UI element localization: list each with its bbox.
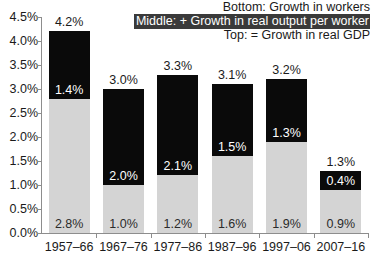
bar-segment-workers-label: 1.0% <box>109 218 138 233</box>
bar-segment-workers-label: 1.6% <box>218 218 247 233</box>
bar-segment-output-per-worker-label: 2.0% <box>109 170 138 185</box>
bar-stack[interactable]: 1.6%1.5% <box>212 84 253 233</box>
bar-segment-workers-label: 1.9% <box>272 218 301 233</box>
bar-total-label: 4.2% <box>49 16 90 29</box>
bar-segment-output-per-worker-label: 1.3% <box>272 127 301 142</box>
bar-stack[interactable]: 0.9%0.4% <box>320 171 361 233</box>
bar-total-label: 3.0% <box>103 74 144 87</box>
bar-segment-workers-label: 1.2% <box>164 218 193 233</box>
bar-stack[interactable]: 1.9%1.3% <box>266 79 307 233</box>
bar-segment-output-per-worker[interactable]: 1.4% <box>49 31 90 98</box>
stacked-bar-chart: Bottom: Growth in workers Middle: + Grow… <box>0 0 372 258</box>
bar-total-label: 3.2% <box>266 64 307 77</box>
y-axis-tick-label: 2.0% <box>10 130 39 144</box>
bar-segment-workers[interactable]: 2.8% <box>49 99 90 233</box>
bar-segment-workers-label: 0.9% <box>327 218 356 233</box>
bar-segment-workers[interactable]: 1.0% <box>103 185 144 233</box>
bar-segment-output-per-worker-label: 2.1% <box>164 160 193 175</box>
y-axis-tick-label: 3.5% <box>10 58 39 72</box>
x-axis-category-label: 1987–96 <box>205 240 259 254</box>
plot-area: 2.8%1.4%4.2%1.0%2.0%3.0%1.2%2.1%3.3%1.6%… <box>42 0 368 258</box>
x-axis-category-label: 1957–66 <box>42 240 96 254</box>
bar-total-label: 3.1% <box>212 69 253 82</box>
y-axis-tick-label: 1.0% <box>10 178 39 192</box>
bar-segment-output-per-worker[interactable]: 0.4% <box>320 171 361 190</box>
bar-segment-workers[interactable]: 1.9% <box>266 142 307 233</box>
y-axis-tick-label: 4.5% <box>10 10 39 24</box>
x-axis-tick-mark <box>368 233 369 238</box>
bar-segment-output-per-worker-label: 1.4% <box>55 84 84 99</box>
y-axis-tick-label: 2.5% <box>10 106 39 120</box>
y-axis-tick-label: 0.0% <box>10 226 39 240</box>
bar-segment-workers-label: 2.8% <box>55 218 84 233</box>
bar-segment-output-per-worker-label: 0.4% <box>327 175 356 190</box>
bar-segment-output-per-worker[interactable]: 2.1% <box>157 75 198 176</box>
bar-stack[interactable]: 2.8%1.4% <box>49 31 90 233</box>
bar-stack[interactable]: 1.2%2.1% <box>157 75 198 233</box>
y-axis-tick-label: 1.5% <box>10 154 39 168</box>
y-axis-tick-label: 0.5% <box>10 202 39 216</box>
x-axis-category-label: 1997–06 <box>259 240 313 254</box>
bar-segment-output-per-worker[interactable]: 2.0% <box>103 89 144 185</box>
y-axis-tick-label: 4.0% <box>10 34 39 48</box>
bar-segment-workers[interactable]: 1.2% <box>157 175 198 233</box>
bar-segment-workers[interactable]: 0.9% <box>320 190 361 233</box>
bar-total-label: 3.3% <box>157 60 198 73</box>
bar-segment-output-per-worker[interactable]: 1.5% <box>212 84 253 156</box>
bar-stack[interactable]: 1.0%2.0% <box>103 89 144 233</box>
x-axis-category-label: 1977–86 <box>151 240 205 254</box>
x-axis-category-label: 2007–16 <box>314 240 368 254</box>
bar-segment-output-per-worker[interactable]: 1.3% <box>266 79 307 141</box>
y-axis-labels: 0.0%0.5%1.0%1.5%2.0%2.5%3.0%3.5%4.0%4.5% <box>0 0 38 258</box>
bar-total-label: 1.3% <box>320 156 361 169</box>
y-axis-tick-label: 3.0% <box>10 82 39 96</box>
x-axis-category-label: 1967–76 <box>96 240 150 254</box>
bar-segment-workers[interactable]: 1.6% <box>212 156 253 233</box>
bar-segment-output-per-worker-label: 1.5% <box>218 141 247 156</box>
